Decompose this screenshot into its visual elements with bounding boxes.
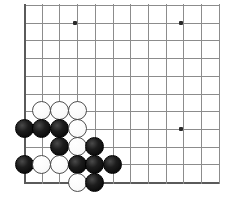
black-stone[interactable] (85, 137, 104, 156)
black-stone[interactable] (15, 155, 34, 174)
grid-line-vertical (219, 4, 220, 184)
white-stone[interactable] (68, 173, 87, 192)
black-stone[interactable] (103, 155, 122, 174)
white-stone[interactable] (68, 119, 87, 138)
grid-line-vertical (166, 4, 167, 184)
grid-line-horizontal (24, 40, 220, 41)
grid-line-horizontal (24, 94, 220, 95)
black-stone[interactable] (32, 119, 51, 138)
star-point-lower-right-icon (179, 127, 183, 131)
grid-line-horizontal (24, 23, 220, 24)
black-stone[interactable] (50, 119, 69, 138)
grid-line-vertical (148, 4, 149, 184)
white-stone[interactable] (50, 155, 69, 174)
white-stone[interactable] (68, 137, 87, 156)
white-stone[interactable] (68, 101, 87, 120)
star-point-top-right-icon (179, 21, 183, 25)
black-stone[interactable] (50, 137, 69, 156)
grid-line-vertical (201, 4, 202, 184)
white-stone[interactable] (32, 101, 51, 120)
grid-line-horizontal (24, 58, 220, 59)
black-stone[interactable] (15, 119, 34, 138)
grid-line-horizontal (24, 5, 220, 6)
white-stone[interactable] (50, 101, 69, 120)
black-stone[interactable] (85, 155, 104, 174)
board-edge-bottom (24, 182, 220, 184)
star-point-top-left-icon (73, 21, 77, 25)
black-stone[interactable] (85, 173, 104, 192)
grid-line-vertical (130, 4, 131, 184)
black-stone[interactable] (68, 155, 87, 174)
go-board-diagram (0, 0, 240, 202)
white-stone[interactable] (32, 155, 51, 174)
grid-line-horizontal (24, 76, 220, 77)
grid-line-vertical (183, 4, 184, 184)
